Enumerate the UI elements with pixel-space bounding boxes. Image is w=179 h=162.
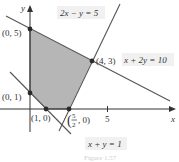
svg-text:x + 2y = 10: x + 2y = 10 bbox=[123, 55, 167, 65]
svg-text:2x − y = 5: 2x − y = 5 bbox=[60, 8, 99, 18]
equation-label-x-plus-y-eq-1: x + y = 1 bbox=[85, 137, 127, 150]
svg-text:2: 2 bbox=[72, 121, 76, 129]
vertex-label-0-1: (0, 1) bbox=[2, 92, 22, 102]
equation-label-x-plus-2y-eq-10: x + 2y = 10 bbox=[122, 53, 174, 66]
vertex-point-0-5 bbox=[28, 27, 33, 32]
feasible-region-diagram: y x 5 (0, 5) (4, 3) (0, 1) (1, 0) ( 5 2 … bbox=[0, 0, 179, 162]
vertex-point-0-1 bbox=[28, 91, 33, 96]
vertex-label-1-0: (1, 0) bbox=[31, 113, 51, 123]
svg-text:x + y = 1: x + y = 1 bbox=[87, 139, 122, 149]
x-axis-arrow-icon bbox=[169, 106, 176, 112]
x-axis-label: x bbox=[170, 114, 175, 124]
svg-text:5: 5 bbox=[72, 112, 76, 120]
feasible-region bbox=[30, 29, 92, 109]
vertex-label-4-3: (4, 3) bbox=[96, 56, 116, 66]
vertex-point-1-0 bbox=[44, 107, 49, 112]
svg-text:, 0): , 0) bbox=[78, 115, 90, 125]
vertex-point-4-3 bbox=[90, 59, 95, 64]
y-axis-arrow-icon bbox=[27, 5, 33, 12]
x-tick-label-5: 5 bbox=[105, 114, 110, 124]
vertex-label-0-5: (0, 5) bbox=[2, 28, 22, 38]
equation-label-2x-minus-y-eq-5: 2x − y = 5 bbox=[57, 6, 105, 19]
vertex-label-5-2-0: ( 5 2 , 0) bbox=[67, 112, 90, 129]
vertex-point-5-2-0 bbox=[67, 107, 72, 112]
figure-caption: Figure 1.57 bbox=[84, 154, 117, 162]
y-axis-label: y bbox=[20, 3, 25, 13]
